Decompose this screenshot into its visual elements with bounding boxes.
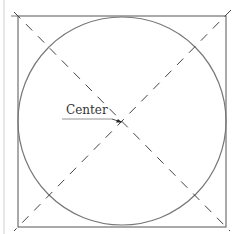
center-label: Center	[66, 103, 108, 117]
diagram-canvas: Center	[0, 0, 244, 234]
diagonal-tr-bl	[14, 10, 231, 231]
